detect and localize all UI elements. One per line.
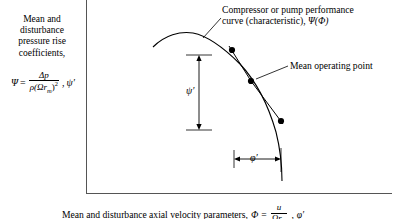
mean-operating-point-marker	[248, 78, 254, 84]
caption-text: Mean and disturbance axial velocity para…	[62, 209, 248, 219]
caption-fraction: u Ωrm	[271, 203, 288, 219]
x-axis-caption: Mean and disturbance axial velocity para…	[62, 203, 393, 219]
curve-label: Compressor or pump performance curve (ch…	[222, 4, 354, 27]
caption-denominator-sub: m	[282, 217, 287, 219]
curve-label-symbol: Ψ(Φ)	[308, 15, 328, 26]
psi-prime-label: ψ′	[186, 85, 194, 96]
figure-root: Mean and disturbance pressure rise coeff…	[0, 0, 393, 219]
caption-denominator-text: Ωr	[272, 213, 282, 219]
caption-numerator: u	[274, 203, 285, 213]
caption-denominator: Ωrm	[271, 213, 288, 219]
curve-label-line-2-prefix: curve (characteristic),	[222, 15, 308, 26]
lower-point-marker	[278, 118, 284, 124]
phi-prime-label: φ′	[250, 152, 258, 163]
operating-point-leader	[256, 66, 288, 79]
operating-point-label: Mean operating point	[290, 60, 373, 71]
upper-point-marker	[229, 47, 235, 53]
curve-label-line-2: curve (characteristic), Ψ(Φ)	[222, 15, 354, 26]
caption-equals: =	[261, 209, 266, 219]
curve-label-leader	[203, 18, 221, 38]
figure-drawing	[0, 0, 393, 219]
curve-label-line-1: Compressor or pump performance	[222, 4, 354, 15]
caption-phi-prime: φ′	[297, 209, 304, 219]
caption-separator: ,	[291, 209, 293, 219]
caption-symbol-phi: Φ	[251, 209, 258, 219]
